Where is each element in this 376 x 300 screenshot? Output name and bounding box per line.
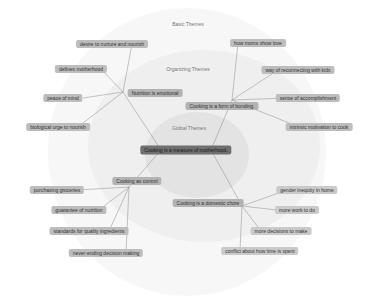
connector-line xyxy=(232,70,278,100)
basic-theme-node[interactable]: how moms show love xyxy=(230,39,286,47)
connector-line xyxy=(240,206,242,251)
global-theme-node[interactable]: Cooking is a measure of motherhood. xyxy=(140,146,231,155)
basic-theme-node[interactable]: intrinsic motivation to cook xyxy=(286,123,353,131)
connector-line xyxy=(123,92,161,150)
basic-theme-node[interactable]: guarantee of nutrition xyxy=(51,206,106,214)
connector-line xyxy=(109,187,129,231)
connector-line xyxy=(242,206,277,210)
basic-theme-node[interactable]: purchasing groceries xyxy=(30,186,84,194)
basic-theme-node[interactable]: desire to nurture and nourish xyxy=(76,40,148,48)
basic-theme-node[interactable]: peace of mind xyxy=(43,94,82,102)
basic-theme-node[interactable]: biological urge to nourish xyxy=(26,123,90,131)
basic-theme-node[interactable]: more decisions to make xyxy=(251,227,312,235)
basic-theme-node[interactable]: gender inequity in home xyxy=(276,186,337,194)
basic-theme-node[interactable]: sense of accomplishment xyxy=(276,94,340,102)
connector-line xyxy=(232,43,238,100)
basic-theme-node[interactable]: way of reconnecting with kids xyxy=(261,66,334,74)
connector-line xyxy=(126,187,129,253)
connector-line xyxy=(78,92,123,127)
connector-line xyxy=(211,150,242,206)
organizing-theme-node[interactable]: Nutrition is emotional xyxy=(128,89,183,97)
organizing-theme-node[interactable]: Cooking is a form of bonding. xyxy=(185,102,258,110)
connector-line xyxy=(83,92,123,98)
basic-theme-node[interactable]: never-ending decision making xyxy=(69,249,143,257)
basic-theme-node[interactable]: standards for quality ingredients xyxy=(50,227,129,235)
connector-line xyxy=(123,44,132,92)
connector-line xyxy=(77,187,129,190)
organizing-theme-node[interactable]: Cooking as control xyxy=(112,177,161,185)
basic-theme-node[interactable]: conflict about how time is spent xyxy=(221,247,298,255)
basic-theme-node[interactable]: defines motherhood xyxy=(55,65,107,73)
basic-theme-node[interactable]: more work to do xyxy=(275,206,319,214)
organizing-theme-node[interactable]: Cooking is a domestic chore xyxy=(173,199,244,207)
